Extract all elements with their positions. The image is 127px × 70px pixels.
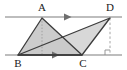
vertex-label-d: D xyxy=(106,1,114,13)
vertex-label-a: A xyxy=(38,1,46,13)
vertex-label-b: B xyxy=(14,57,21,69)
right-angle-marker-icon xyxy=(105,50,110,55)
vertex-label-c: C xyxy=(79,57,86,69)
top-parallel-arrow-icon xyxy=(64,13,72,20)
geometry-canvas: A D B C xyxy=(0,0,127,70)
geometry-figure: A D B C xyxy=(0,0,127,70)
